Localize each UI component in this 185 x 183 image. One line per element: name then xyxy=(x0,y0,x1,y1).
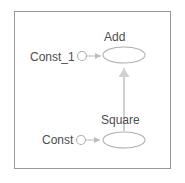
node-label-const-1: Const_1 xyxy=(30,51,75,63)
node-label-square: Square xyxy=(101,114,140,126)
node-const[interactable] xyxy=(77,136,86,145)
node-add[interactable] xyxy=(103,47,145,63)
computation-graph xyxy=(0,0,185,183)
node-square[interactable] xyxy=(103,132,145,148)
node-label-const: Const xyxy=(42,134,73,146)
diagram-canvas: Add Square Const_1 Const xyxy=(0,0,185,183)
node-label-add: Add xyxy=(104,31,125,43)
node-const-1[interactable] xyxy=(78,52,87,61)
